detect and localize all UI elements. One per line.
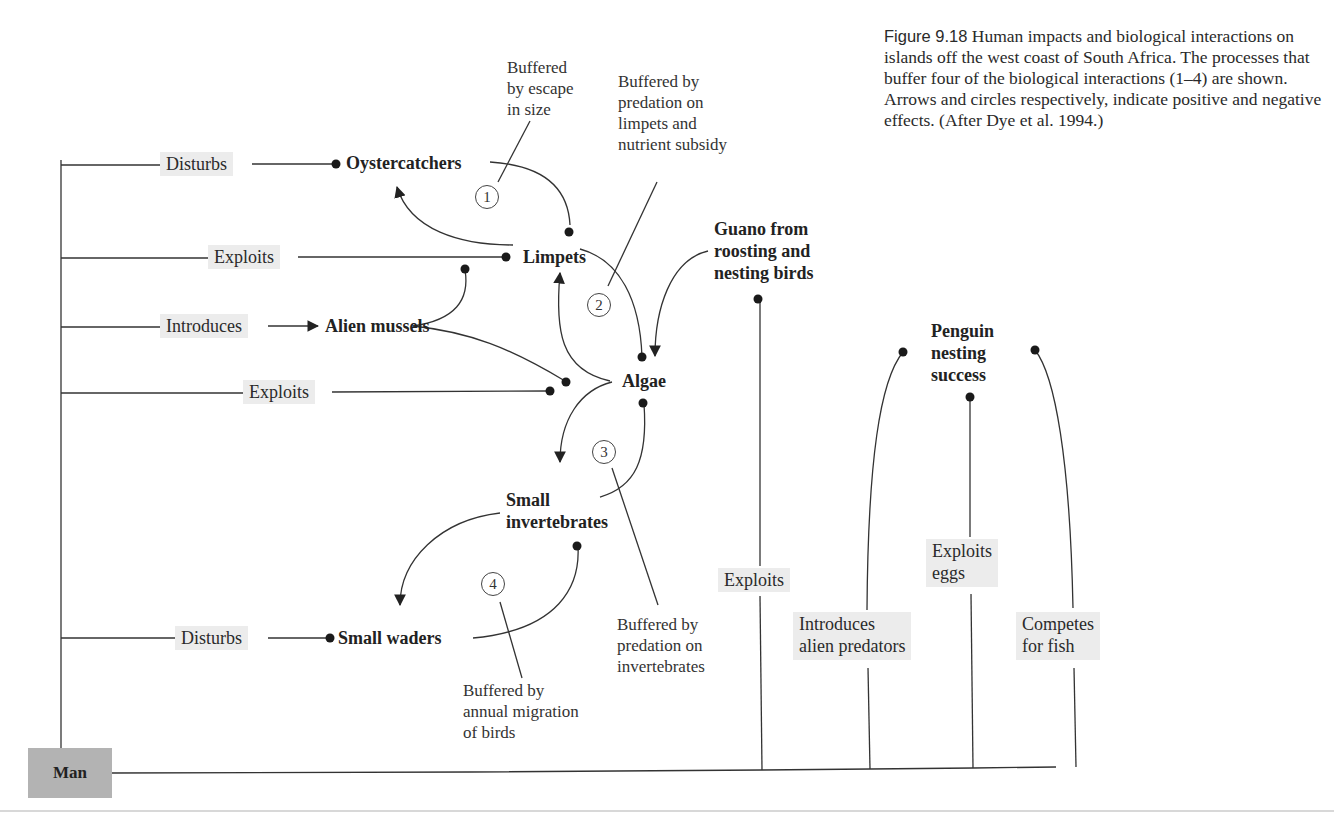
buffer-note-1: Buffered by escape in size bbox=[507, 57, 574, 120]
buffer-note-2: Buffered by predation on limpets and nut… bbox=[618, 71, 727, 155]
action-disturbs-waders: Disturbs bbox=[175, 626, 248, 650]
node-guano-line1: Guano from bbox=[714, 218, 808, 240]
buffer-note-4: Buffered by annual migration of birds bbox=[463, 680, 579, 743]
node-guano-line3: nesting birds bbox=[714, 262, 814, 284]
action-exploits-eggs-line2: eggs bbox=[932, 562, 992, 584]
node-small-waders: Small waders bbox=[338, 627, 442, 649]
action-introduces-alien-predators: Introduces alien predators bbox=[793, 612, 911, 660]
page-divider bbox=[0, 810, 1334, 812]
buffer-note-3: Buffered by predation on invertebrates bbox=[617, 614, 705, 677]
action-competes-line1: Competes bbox=[1022, 613, 1094, 635]
buffer-number-2: 2 bbox=[587, 293, 611, 317]
action-introduces-mussels: Introduces bbox=[160, 314, 248, 338]
node-penguin-line3: success bbox=[931, 364, 986, 386]
action-exploits-limpets: Exploits bbox=[208, 245, 280, 269]
node-penguin-line1: Penguin bbox=[931, 320, 994, 342]
action-introduces-predators-line1: Introduces bbox=[799, 613, 905, 635]
node-limpets: Limpets bbox=[523, 246, 586, 268]
action-exploits-algae: Exploits bbox=[243, 380, 315, 404]
buffer-number-3: 3 bbox=[592, 440, 616, 464]
node-alien-mussels: Alien mussels bbox=[325, 315, 430, 337]
action-exploits-eggs-line1: Exploits bbox=[932, 540, 992, 562]
node-small-invertebrates-line1: Small bbox=[506, 489, 550, 511]
action-exploits-guano: Exploits bbox=[718, 568, 790, 592]
action-introduces-predators-line2: alien predators bbox=[799, 635, 905, 657]
man-label: Man bbox=[53, 763, 87, 783]
action-competes-line2: for fish bbox=[1022, 635, 1094, 657]
figure-label: Figure 9.18 bbox=[884, 27, 967, 45]
action-exploits-eggs: Exploits eggs bbox=[926, 539, 998, 587]
buffer-number-1: 1 bbox=[475, 185, 499, 209]
buffer-number-4: 4 bbox=[481, 572, 505, 596]
action-competes-for-fish: Competes for fish bbox=[1016, 612, 1100, 660]
node-algae: Algae bbox=[622, 370, 666, 392]
node-penguin-line2: nesting bbox=[931, 342, 986, 364]
figure-caption: Figure 9.18 Human impacts and biological… bbox=[884, 26, 1334, 131]
node-small-invertebrates-line2: invertebrates bbox=[506, 511, 608, 533]
node-oystercatchers: Oystercatchers bbox=[346, 152, 462, 174]
node-man: Man bbox=[28, 748, 112, 798]
node-guano-line2: roosting and bbox=[714, 240, 810, 262]
action-disturbs-oystercatchers: Disturbs bbox=[160, 152, 233, 176]
